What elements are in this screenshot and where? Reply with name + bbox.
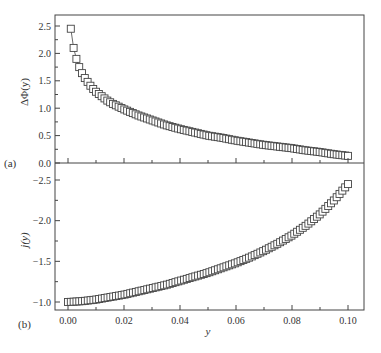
series-delta-phi	[67, 25, 351, 159]
data-marker	[70, 44, 77, 51]
plot-frame	[55, 15, 364, 310]
x-tick-label: 0.04	[171, 315, 189, 326]
panel-label-b: (b)	[18, 318, 31, 331]
x-tick-label: 0.02	[115, 315, 133, 326]
x-tick-label: 0.06	[227, 315, 245, 326]
x-tick-label: 0.00	[59, 315, 77, 326]
panel-label-a: (a)	[4, 157, 17, 170]
data-marker	[345, 181, 352, 188]
y-axis-label-a: ΔΦ(y)	[18, 78, 31, 106]
y-tick-label-b: −1.5	[33, 256, 51, 267]
y-tick-label-a: 2.0	[39, 48, 52, 59]
data-marker	[67, 25, 74, 32]
x-tick-label: 0.08	[283, 315, 301, 326]
x-axis-label: y	[205, 325, 211, 337]
x-tick-label: 0.10	[339, 315, 357, 326]
y-tick-label-a: 0.0	[39, 158, 52, 169]
y-tick-label-a: 1.0	[39, 103, 52, 114]
y-axis-label-b: j(y)	[18, 232, 31, 250]
data-marker	[73, 55, 80, 62]
y-tick-label-b: −2.5	[33, 175, 51, 186]
y-tick-label-b: −1.0	[33, 297, 51, 308]
y-tick-label-a: 2.5	[39, 21, 52, 32]
y-tick-label-a: 1.5	[39, 75, 52, 86]
y-tick-label-a: 0.5	[39, 130, 52, 141]
chart: 0.000.020.040.060.080.100.00.51.01.52.02…	[0, 0, 381, 353]
series-j	[65, 181, 352, 306]
y-tick-label-b: −2.0	[33, 215, 51, 226]
